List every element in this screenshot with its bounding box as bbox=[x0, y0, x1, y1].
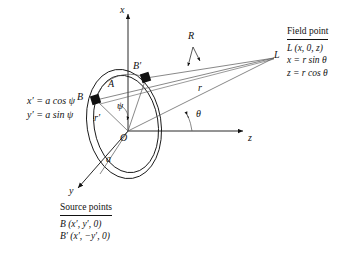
parametric-x-equation: x′ = a cos ψ bbox=[27, 96, 75, 106]
marker-source-b-prime bbox=[140, 72, 151, 83]
field-point-label: L bbox=[274, 50, 280, 60]
field-distance-label-r: r bbox=[198, 83, 202, 93]
field-point-box-row-0: L (x, 0, z) bbox=[287, 42, 328, 55]
separation-label-R: R bbox=[188, 31, 194, 41]
angle-theta-arc bbox=[187, 115, 192, 132]
separation-R-arrow bbox=[188, 47, 200, 66]
field-point-box-row-2: z = r cos θ bbox=[287, 67, 328, 80]
current-ring bbox=[79, 64, 169, 184]
parametric-y-equation: y′ = a sin ψ bbox=[27, 110, 73, 120]
axis-z-label: z bbox=[248, 133, 252, 143]
axis-y-label: y bbox=[69, 186, 73, 196]
arc-A bbox=[96, 74, 146, 100]
field-point-box-title: Field point bbox=[287, 25, 328, 40]
origin-label: O bbox=[120, 133, 127, 143]
source-points-box: Source points B (x′, y′, 0) B′ (x′, −y′,… bbox=[60, 201, 112, 243]
axis-x-label: x bbox=[120, 5, 124, 15]
source-points-box-row-1: B′ (x′, −y′, 0) bbox=[60, 230, 112, 243]
arc-label-A: A bbox=[108, 79, 114, 89]
field-point-box-row-1: x = r sin θ bbox=[287, 54, 328, 67]
azimuth-angle-label-psi: ψ bbox=[117, 101, 123, 111]
ray-bundle bbox=[96, 58, 274, 131]
polar-angle-label-theta: θ bbox=[196, 109, 201, 119]
source-points-box-row-0: B (x′, y′, 0) bbox=[60, 218, 112, 231]
ring-radius-label-a: a bbox=[106, 154, 111, 164]
source-radius-label-r-prime: r′ bbox=[94, 113, 100, 123]
source-points-box-title: Source points bbox=[60, 201, 112, 216]
field-point-box: Field point L (x, 0, z) x = r sin θ z = … bbox=[287, 25, 328, 79]
figure-canvas: x z y O B B′ L A a r′ r R θ ψ x′ = a cos… bbox=[0, 0, 363, 257]
source-b-prime-label: B′ bbox=[133, 61, 141, 71]
source-b-label: B bbox=[77, 92, 83, 102]
